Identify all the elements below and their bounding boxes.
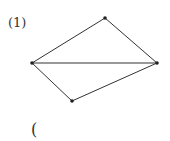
answer-bracket: ( [31, 120, 37, 139]
vertex-left [30, 61, 34, 65]
edge-right-bottom [72, 63, 157, 101]
edge-bottom-left [32, 63, 72, 101]
vertex-top [103, 16, 107, 20]
edge-top-right [105, 18, 157, 63]
vertex-bottom [70, 99, 74, 103]
edge-left-top [32, 18, 105, 63]
quadrilateral-diagram [0, 0, 170, 141]
vertex-right [155, 61, 159, 65]
